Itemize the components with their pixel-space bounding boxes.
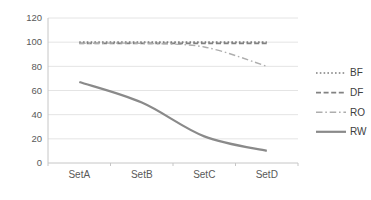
y-axis-label: 20 [31,133,42,144]
legend-label-DF: DF [350,87,363,98]
x-axis-label: SetC [193,169,215,180]
x-axis-label: SetB [131,169,153,180]
y-axis-label: 100 [26,36,42,47]
legend-label-RW: RW [350,126,367,137]
y-axis-label: 40 [31,109,42,120]
y-axis-label: 60 [31,85,42,96]
y-axis-label: 0 [37,157,42,168]
series-line-RO [79,43,266,66]
legend-label-BF: BF [350,67,363,78]
series-line-RW [79,82,266,151]
plot-area: 020406080100120SetASetBSetCSetDBFDFRORW [0,0,371,200]
y-axis-label: 120 [26,12,42,23]
line-chart-figure: 020406080100120SetASetBSetCSetDBFDFRORW [0,0,371,200]
y-axis-label: 80 [31,61,42,72]
x-axis-label: SetA [68,169,90,180]
x-axis-label: SetD [256,169,278,180]
legend-label-RO: RO [350,107,365,118]
